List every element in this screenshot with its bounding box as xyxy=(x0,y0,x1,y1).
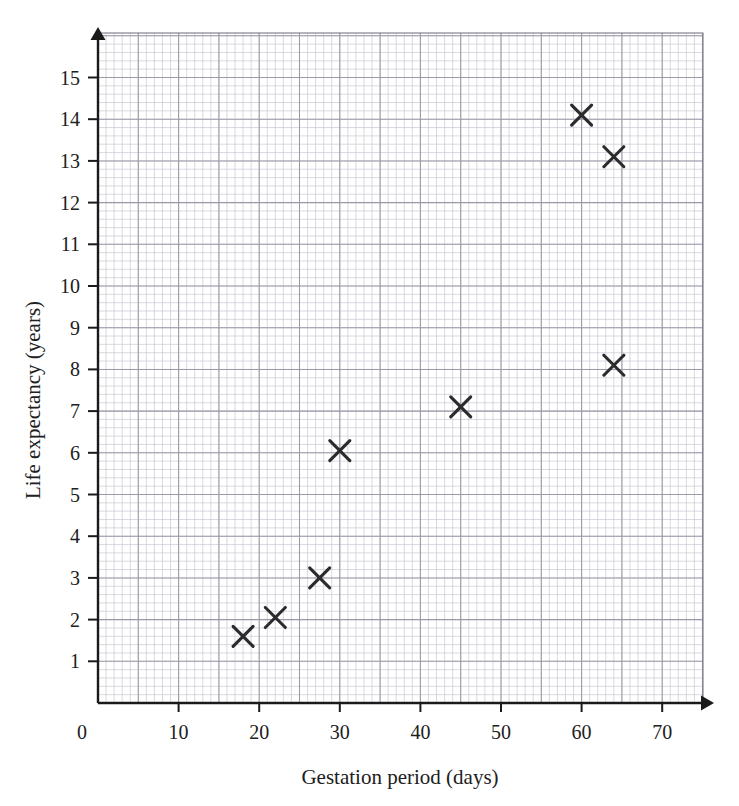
y-tick-label: 1 xyxy=(70,650,80,672)
x-tick-label: 40 xyxy=(410,721,430,743)
y-tick-label: 15 xyxy=(60,67,80,89)
x-axis-tick-labels: 010203040506070 xyxy=(77,721,672,743)
scatter-plot-figure: 010203040506070 123456789101112131415 Ge… xyxy=(0,0,739,806)
y-axis-tick-labels: 123456789101112131415 xyxy=(60,67,80,673)
y-tick-label: 5 xyxy=(70,484,80,506)
y-tick-label: 13 xyxy=(60,150,80,172)
x-tick-label: 0 xyxy=(77,721,87,743)
x-axis-ticks xyxy=(179,703,663,712)
x-tick-label: 20 xyxy=(249,721,269,743)
x-axis-arrowhead xyxy=(701,696,714,711)
y-axis-title: Life expectancy (years) xyxy=(21,301,45,499)
y-tick-label: 3 xyxy=(70,567,80,589)
axis-lines xyxy=(91,27,715,711)
y-axis-ticks xyxy=(88,78,98,662)
y-tick-label: 12 xyxy=(60,192,80,214)
y-tick-label: 8 xyxy=(70,358,80,380)
y-tick-label: 6 xyxy=(70,442,80,464)
y-tick-label: 9 xyxy=(70,317,80,339)
y-tick-label: 2 xyxy=(70,609,80,631)
y-tick-label: 11 xyxy=(61,233,80,255)
x-tick-label: 60 xyxy=(572,721,592,743)
scatter-plot-svg: 010203040506070 123456789101112131415 Ge… xyxy=(0,0,739,806)
x-tick-label: 10 xyxy=(169,721,189,743)
x-tick-label: 30 xyxy=(330,721,350,743)
x-tick-label: 50 xyxy=(491,721,511,743)
y-tick-label: 14 xyxy=(60,108,80,130)
x-axis-title: Gestation period (days) xyxy=(301,765,498,789)
y-tick-label: 4 xyxy=(70,525,80,547)
y-tick-label: 10 xyxy=(60,275,80,297)
x-tick-label: 70 xyxy=(652,721,672,743)
y-tick-label: 7 xyxy=(70,400,80,422)
